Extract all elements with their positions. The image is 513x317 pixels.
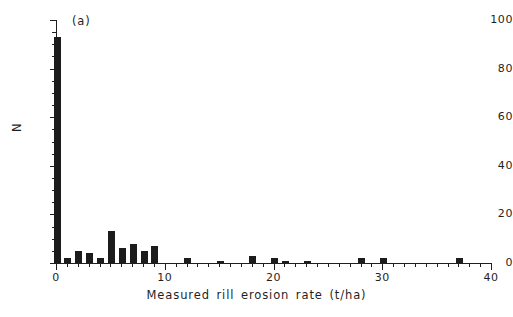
x-axis-major-tick: [56, 264, 57, 270]
histogram-bar: [380, 258, 387, 263]
histogram-bar: [119, 248, 126, 263]
x-axis-tick-label: 40: [471, 272, 511, 283]
histogram-bar: [141, 251, 148, 263]
x-axis-minor-tick: [404, 264, 405, 267]
y-axis-tick-label: 40: [471, 160, 513, 171]
x-axis-minor-tick: [187, 264, 188, 267]
histogram-bar: [358, 258, 365, 263]
x-axis-minor-tick: [67, 264, 68, 267]
x-axis-minor-tick: [230, 264, 231, 267]
x-axis-minor-tick: [100, 264, 101, 267]
x-axis-major-tick: [165, 264, 166, 270]
histogram-bar: [456, 258, 463, 263]
x-axis-minor-tick: [295, 264, 296, 267]
x-axis-minor-tick: [371, 264, 372, 267]
y-axis-title: N: [10, 123, 24, 132]
x-axis-minor-tick: [284, 264, 285, 267]
x-axis-minor-tick: [306, 264, 307, 267]
histogram-bar: [249, 256, 256, 263]
x-axis-minor-tick: [458, 264, 459, 267]
x-axis-tick-label: 30: [362, 272, 402, 283]
y-axis-tick-label: 60: [471, 111, 513, 122]
histogram-bar: [217, 261, 224, 263]
x-axis-minor-tick: [448, 264, 449, 267]
x-axis-minor-tick: [219, 264, 220, 267]
y-axis-minor-tick: [52, 32, 56, 33]
x-axis-minor-tick: [78, 264, 79, 267]
y-axis-tick-label: 80: [471, 63, 513, 74]
x-axis-minor-tick: [110, 264, 111, 267]
y-axis-major-tick: [50, 20, 56, 21]
x-axis-minor-tick: [469, 264, 470, 267]
y-axis-tick-label: 20: [471, 208, 513, 219]
histogram-bar: [271, 258, 278, 263]
x-axis-tick-label: 10: [145, 272, 185, 283]
x-axis-major-tick: [274, 264, 275, 270]
histogram-figure: (a) N Measured rill erosion rate (t/ha) …: [0, 0, 513, 317]
x-axis-minor-tick: [339, 264, 340, 267]
histogram-bar: [64, 258, 71, 263]
x-axis-minor-tick: [393, 264, 394, 267]
x-axis-minor-tick: [328, 264, 329, 267]
histogram-bar: [86, 253, 93, 263]
x-axis-major-tick: [491, 264, 492, 270]
histogram-bar: [97, 258, 104, 263]
x-axis-minor-tick: [437, 264, 438, 267]
x-axis-minor-tick: [252, 264, 253, 267]
y-axis-tick-label: 100: [471, 14, 513, 25]
histogram-bar: [108, 231, 115, 263]
x-axis-minor-tick: [415, 264, 416, 267]
x-axis-minor-tick: [197, 264, 198, 267]
x-axis-minor-tick: [208, 264, 209, 267]
x-axis-minor-tick: [143, 264, 144, 267]
histogram-bar: [130, 244, 137, 263]
x-axis-tick-label: 0: [36, 272, 76, 283]
histogram-bar: [304, 261, 311, 263]
histogram-bar: [184, 258, 191, 263]
x-axis-tick-label: 20: [254, 272, 294, 283]
x-axis-minor-tick: [89, 264, 90, 267]
x-axis-minor-tick: [426, 264, 427, 267]
y-axis-tick-label: 0: [471, 257, 513, 268]
x-axis-minor-tick: [176, 264, 177, 267]
histogram-bar: [282, 261, 289, 263]
x-axis-minor-tick: [241, 264, 242, 267]
panel-label: (a): [72, 14, 90, 28]
x-axis-minor-tick: [154, 264, 155, 267]
x-axis-minor-tick: [350, 264, 351, 267]
x-axis-major-tick: [382, 264, 383, 270]
histogram-bar: [75, 251, 82, 263]
x-axis-minor-tick: [121, 264, 122, 267]
x-axis-title: Measured rill erosion rate (t/ha): [0, 288, 513, 302]
x-axis-minor-tick: [263, 264, 264, 267]
histogram-bar: [151, 246, 158, 263]
x-axis-minor-tick: [480, 264, 481, 267]
histogram-bar: [54, 37, 61, 263]
x-axis-minor-tick: [361, 264, 362, 267]
x-axis-minor-tick: [132, 264, 133, 267]
x-axis-minor-tick: [317, 264, 318, 267]
